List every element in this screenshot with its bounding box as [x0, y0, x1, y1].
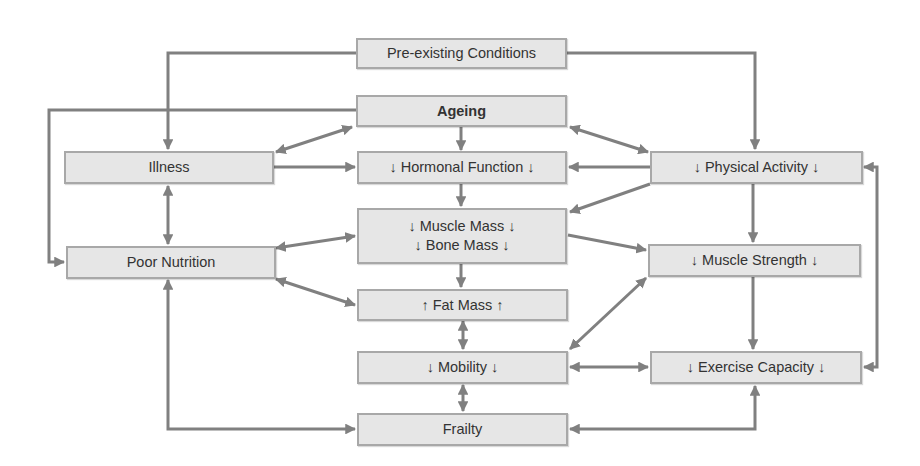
node-ageing: Ageing	[356, 95, 567, 127]
node-frailty: Frailty	[357, 413, 568, 446]
node-physical-activity: ↓ Physical Activity ↓	[650, 151, 863, 184]
node-illness: Illness	[64, 151, 274, 184]
node-muscle-bone-mass: ↓ Muscle Mass ↓ ↓ Bone Mass ↓	[357, 208, 567, 264]
node-preexisting-conditions: Pre-existing Conditions	[356, 38, 567, 69]
node-label: ↓ Mobility ↓	[427, 358, 499, 377]
node-mobility: ↓ Mobility ↓	[357, 351, 568, 384]
node-label-bone-mass: ↓ Bone Mass ↓	[414, 236, 509, 255]
node-label: Ageing	[437, 102, 486, 121]
node-label: Poor Nutrition	[127, 253, 216, 272]
node-label: Illness	[148, 158, 189, 177]
node-label: ↓ Hormonal Function ↓	[389, 158, 534, 177]
frailty-flow-diagram: Pre-existing Conditions Ageing Illness ↓…	[0, 0, 920, 466]
node-label: Pre-existing Conditions	[387, 44, 536, 63]
node-label: ↓ Muscle Strength ↓	[691, 251, 818, 270]
node-hormonal-function: ↓ Hormonal Function ↓	[357, 151, 567, 184]
node-exercise-capacity: ↓ Exercise Capacity ↓	[650, 351, 862, 384]
node-label: ↑ Fat Mass ↑	[421, 296, 503, 315]
node-fat-mass: ↑ Fat Mass ↑	[357, 289, 568, 321]
node-label: ↓ Exercise Capacity ↓	[687, 358, 826, 377]
node-label: Frailty	[443, 420, 482, 439]
node-label-muscle-mass: ↓ Muscle Mass ↓	[408, 217, 515, 236]
node-poor-nutrition: Poor Nutrition	[66, 246, 276, 279]
node-muscle-strength: ↓ Muscle Strength ↓	[648, 244, 861, 277]
node-label: ↓ Physical Activity ↓	[694, 158, 820, 177]
